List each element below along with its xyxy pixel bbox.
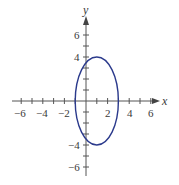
coordinate-plane: x y −6 −4 −2 2 4 6 6 4 bbox=[0, 0, 179, 185]
y-axis-label: y bbox=[82, 3, 89, 17]
x-axis-label: x bbox=[161, 94, 168, 108]
y-tick-label: 6 bbox=[74, 29, 80, 41]
y-tick-label: −4 bbox=[68, 139, 80, 151]
x-tick-label: 4 bbox=[127, 107, 133, 119]
x-tick-label: 6 bbox=[148, 107, 154, 119]
x-tick-label: −6 bbox=[14, 107, 26, 119]
y-tick-label: 4 bbox=[74, 51, 80, 63]
x-axis-arrow-icon bbox=[152, 98, 160, 104]
y-axis-arrow-icon bbox=[83, 16, 89, 25]
x-tick-label: −4 bbox=[36, 107, 48, 119]
x-tick-label: 2 bbox=[105, 107, 111, 119]
x-tick-label: −2 bbox=[58, 107, 70, 119]
y-tick-label: −6 bbox=[68, 161, 80, 173]
